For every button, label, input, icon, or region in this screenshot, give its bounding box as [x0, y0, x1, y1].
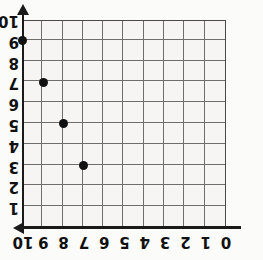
y-tick-label: 8 — [0, 55, 19, 70]
grid-line-vertical — [183, 21, 184, 227]
grid-line-vertical — [123, 21, 124, 227]
grid-line-horizontal — [24, 164, 225, 165]
grid-line-horizontal — [24, 60, 225, 61]
grid-line-vertical — [41, 21, 42, 227]
rotated-plot-layer: 012345678910 12345678910 — [0, 0, 263, 260]
y-tick-label: 2 — [0, 179, 19, 194]
data-point — [39, 78, 48, 87]
y-tick-label: 1 — [0, 200, 19, 215]
grid-line-horizontal — [24, 205, 225, 206]
grid-line-horizontal — [24, 143, 225, 144]
x-tick-label: 10 — [11, 234, 35, 249]
grid-line-horizontal — [24, 122, 225, 123]
y-tick-label: 6 — [0, 96, 19, 111]
grid-line-vertical — [204, 21, 205, 227]
grid-line-horizontal — [24, 184, 225, 185]
grid-line-vertical — [143, 21, 144, 227]
grid-line-horizontal — [24, 39, 225, 40]
y-tick-label: 10 — [0, 13, 19, 28]
grid-line-vertical — [82, 21, 83, 227]
y-tick-label: 9 — [0, 34, 19, 49]
figure-canvas: 012345678910 12345678910 — [0, 0, 263, 260]
y-tick-label: 5 — [0, 117, 19, 132]
y-tick-label: 3 — [0, 159, 19, 174]
y-axis-arrow-icon — [18, 4, 30, 15]
grid-line-horizontal — [24, 101, 225, 102]
grid-line-horizontal — [24, 80, 225, 81]
y-tick-label: 4 — [0, 138, 19, 153]
y-tick-label: 7 — [0, 75, 19, 90]
grid-line-vertical — [163, 21, 164, 227]
grid-line-vertical — [102, 21, 103, 227]
grid-area — [23, 20, 226, 228]
x-axis-line — [22, 227, 241, 230]
